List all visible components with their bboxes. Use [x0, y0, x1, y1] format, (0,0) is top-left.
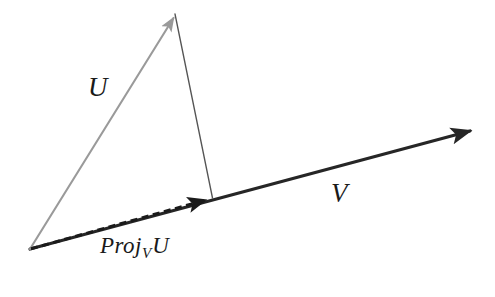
vector-projection-figure: U V ProjVU — [0, 0, 495, 297]
projection-label-tail: U — [152, 233, 169, 258]
figure-background — [0, 0, 495, 297]
projection-label: ProjVU — [100, 234, 169, 260]
diagram-canvas — [0, 0, 495, 297]
projection-label-head: Proj — [100, 233, 142, 258]
projection-label-subscript: V — [142, 244, 151, 261]
vector-v-label: V — [331, 180, 348, 207]
vector-u-label: U — [88, 74, 108, 101]
